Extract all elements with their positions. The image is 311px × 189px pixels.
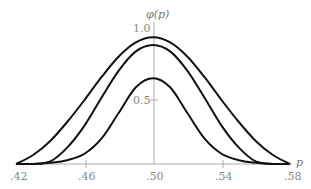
curves bbox=[16, 37, 290, 164]
curve-2 bbox=[16, 78, 290, 164]
y-tick-label-1: 1.0 bbox=[133, 22, 151, 35]
curve-1 bbox=[16, 45, 290, 164]
y-axis-label: φ(p) bbox=[146, 8, 169, 21]
x-tick-label-58: .58 bbox=[284, 170, 302, 183]
y-tick-label-05: 0.5 bbox=[133, 94, 151, 107]
x-tick-label-54: .54 bbox=[215, 170, 233, 183]
curve-0 bbox=[16, 37, 290, 164]
x-tick-label-50: .50 bbox=[146, 170, 164, 183]
x-axis-label: p bbox=[296, 156, 303, 169]
x-tick-label-46: .46 bbox=[78, 170, 96, 183]
axes bbox=[16, 22, 292, 168]
oc-curve-chart: φ(p) 1.0 0.5 p .42 .46 .50 .54 .58 bbox=[0, 0, 311, 189]
x-tick-label-42: .42 bbox=[10, 170, 28, 183]
